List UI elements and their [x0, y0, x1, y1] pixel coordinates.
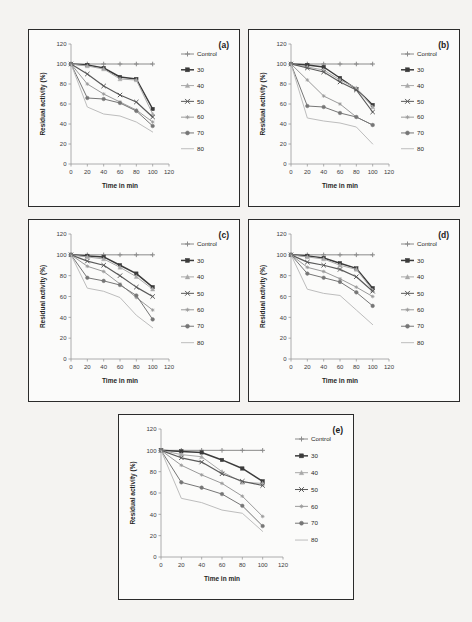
- legend-item-40[interactable]: 40: [181, 273, 204, 280]
- y-tick-label: 0: [63, 356, 67, 362]
- x-tick-label: 60: [117, 364, 124, 370]
- y-tick-label: 20: [280, 141, 287, 147]
- series-80: [71, 255, 153, 328]
- legend-label: Control: [417, 50, 437, 57]
- legend-item-30[interactable]: 30: [401, 66, 424, 73]
- legend-item-50[interactable]: 50: [295, 486, 318, 493]
- legend-label: 50: [417, 98, 424, 105]
- legend-label: 70: [197, 129, 204, 136]
- legend-item-40[interactable]: 40: [401, 273, 424, 280]
- y-tick-label: 120: [276, 231, 287, 237]
- legend-item-50[interactable]: 50: [181, 290, 204, 297]
- legend-label: 50: [417, 290, 424, 297]
- series-50: [289, 62, 375, 114]
- x-axis-title: Time in min: [102, 377, 138, 384]
- series-50: [289, 253, 375, 294]
- series-40: [289, 62, 375, 109]
- legend-item-50[interactable]: 50: [401, 98, 424, 105]
- legend-label: 70: [311, 519, 318, 526]
- x-tick-label: 60: [117, 169, 124, 175]
- legend-label: 40: [417, 82, 424, 89]
- x-tick-label: 0: [289, 364, 293, 370]
- legend-label: 30: [197, 66, 204, 73]
- legend-label: Control: [197, 50, 217, 57]
- y-tick-label: 0: [283, 161, 287, 167]
- y-tick-label: 40: [280, 121, 287, 127]
- legend-item-80[interactable]: 80: [401, 339, 424, 346]
- legend-item-control[interactable]: Control: [181, 50, 217, 57]
- legend-item-60[interactable]: 60: [295, 503, 318, 510]
- chart-panel-b: 020406080100120020406080100120Time in mi…: [248, 29, 460, 207]
- plot-area: 020406080100120020406080100120Time in mi…: [119, 415, 355, 601]
- panel-label: (a): [219, 40, 229, 50]
- figure-page: 020406080100120020406080100120Time in mi…: [0, 0, 472, 622]
- x-tick-label: 40: [320, 169, 327, 175]
- legend-item-80[interactable]: 80: [181, 145, 204, 152]
- panel-label: (b): [438, 40, 449, 50]
- legend-label: 80: [197, 339, 204, 346]
- series-30: [289, 253, 374, 290]
- legend-item-60[interactable]: 60: [181, 306, 204, 313]
- panel-label: (e): [333, 425, 343, 435]
- legend-label: 40: [197, 82, 204, 89]
- x-tick-label: 0: [69, 169, 73, 175]
- chart-panel-d: 020406080100120020406080100120Time in mi…: [248, 219, 460, 402]
- series-40: [289, 253, 375, 292]
- legend-label: 50: [311, 486, 318, 493]
- x-axis-title: Time in min: [102, 182, 138, 189]
- legend-item-80[interactable]: 80: [181, 339, 204, 346]
- x-tick-label: 0: [289, 169, 293, 175]
- legend-item-60[interactable]: 60: [401, 306, 424, 313]
- x-tick-label: 0: [69, 364, 73, 370]
- legend-item-80[interactable]: 80: [401, 145, 424, 152]
- legend-item-50[interactable]: 50: [401, 290, 424, 297]
- legend-item-40[interactable]: 40: [181, 82, 204, 89]
- legend-item-70[interactable]: 70: [401, 129, 424, 136]
- x-tick-label: 120: [384, 364, 395, 370]
- x-tick-label: 80: [239, 562, 246, 568]
- legend-label: 30: [197, 257, 204, 264]
- legend-item-40[interactable]: 40: [401, 82, 424, 89]
- x-tick-label: 40: [100, 169, 107, 175]
- legend-item-70[interactable]: 70: [181, 322, 204, 329]
- legend-item-control[interactable]: Control: [401, 50, 437, 57]
- legend-item-80[interactable]: 80: [295, 536, 318, 543]
- x-tick-label: 100: [368, 364, 379, 370]
- legend-item-40[interactable]: 40: [295, 469, 318, 476]
- legend-item-60[interactable]: 60: [401, 113, 424, 120]
- legend-label: 80: [417, 339, 424, 346]
- y-tick-label: 40: [60, 315, 67, 321]
- legend-label: 70: [197, 322, 204, 329]
- legend-item-70[interactable]: 70: [401, 322, 424, 329]
- y-tick-label: 20: [60, 141, 67, 147]
- legend-item-30[interactable]: 30: [401, 257, 424, 264]
- plot-area: 020406080100120020406080100120Time in mi…: [29, 30, 241, 208]
- plot-area: 020406080100120020406080100120Time in mi…: [29, 220, 241, 403]
- y-tick-label: 40: [280, 315, 287, 321]
- y-tick-label: 80: [150, 469, 157, 475]
- x-tick-label: 40: [320, 364, 327, 370]
- x-tick-label: 120: [384, 169, 395, 175]
- legend-item-60[interactable]: 60: [181, 113, 204, 120]
- legend-item-30[interactable]: 30: [181, 66, 204, 73]
- legend-label: 40: [417, 273, 424, 280]
- legend-item-70[interactable]: 70: [295, 519, 318, 526]
- legend-item-control[interactable]: Control: [401, 240, 437, 247]
- legend-item-30[interactable]: 30: [295, 452, 318, 459]
- legend-item-control[interactable]: Control: [295, 435, 331, 442]
- x-tick-label: 120: [164, 169, 175, 175]
- legend-label: Control: [311, 435, 331, 442]
- y-tick-label: 0: [283, 356, 287, 362]
- y-tick-label: 0: [63, 161, 67, 167]
- x-tick-label: 100: [368, 169, 379, 175]
- y-tick-label: 60: [280, 101, 287, 107]
- x-tick-label: 60: [337, 169, 344, 175]
- legend-item-50[interactable]: 50: [181, 98, 204, 105]
- legend-item-30[interactable]: 30: [181, 257, 204, 264]
- legend-item-70[interactable]: 70: [181, 129, 204, 136]
- plot-area: 020406080100120020406080100120Time in mi…: [249, 30, 461, 208]
- y-axis-title: Residual activity (%): [39, 72, 47, 135]
- y-tick-label: 20: [60, 335, 67, 341]
- legend-item-control[interactable]: Control: [181, 240, 217, 247]
- legend-label: Control: [417, 240, 437, 247]
